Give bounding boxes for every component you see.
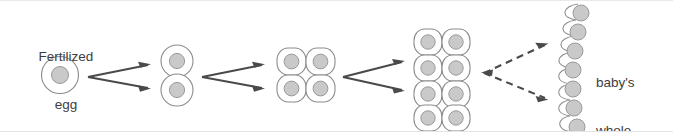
stage-2-cell-group [161,45,193,106]
cell-icon [161,74,193,106]
nucleus-icon [313,81,328,96]
cell-icon [414,55,442,81]
nucleus-icon [449,35,463,49]
baby-whole-body-label-line2: whole [596,123,635,132]
arrow-right-icon [484,73,545,98]
cell-icon [306,48,335,75]
arrow-right-icon [484,45,545,73]
nucleus-icon [169,53,184,68]
cell-icon [442,55,470,81]
nucleus-icon [449,111,463,125]
arrow-right-icon [535,43,548,49]
cell-icon [442,105,470,131]
fertilized-egg-label-line2: egg [18,97,114,113]
cell-division-diagram: Fertilized egg baby's whole body [0,0,673,132]
nucleus-icon [449,87,463,101]
stage-4-cell-group [277,48,335,102]
nucleus-icon [284,54,299,69]
nucleus-icon [421,87,435,101]
division-arrow-2-to-4 [202,62,265,92]
cell-icon [442,29,470,55]
fertilized-egg-label-line1: Fertilized [18,49,114,65]
arrow-right-icon [202,65,262,77]
nucleus-icon [421,61,435,75]
cell-icon [414,29,442,55]
cell-icon [414,105,442,131]
nucleus-icon [566,100,582,116]
nucleus-icon [421,111,435,125]
nucleus-icon [567,43,583,59]
cell-icon [442,81,470,107]
cell-icon [414,81,442,107]
nucleus-icon [421,35,435,49]
fertilized-egg-label: Fertilized egg [18,17,114,132]
stage-many-cell-group [559,4,589,132]
baby-whole-body-label-line1: baby's [596,75,635,91]
nucleus-icon [565,62,581,78]
nucleus-icon [169,82,184,97]
stage-8-cell-group [414,29,470,131]
nucleus-icon [565,81,581,97]
nucleus-icon [284,81,299,96]
baby-whole-body-label: baby's whole body [596,43,635,132]
nucleus-icon [569,119,585,132]
nucleus-icon [313,54,328,69]
arrow-right-icon [343,62,402,77]
division-arrow-4-to-8 [343,59,405,94]
nucleus-icon [570,24,586,40]
nucleus-icon [449,61,463,75]
cell-icon [277,48,306,75]
cell-icon [306,75,335,102]
nucleus-icon [573,5,589,21]
division-arrow-8-to-many [481,43,549,102]
cell-icon [277,75,306,102]
cell-icon [161,45,193,77]
